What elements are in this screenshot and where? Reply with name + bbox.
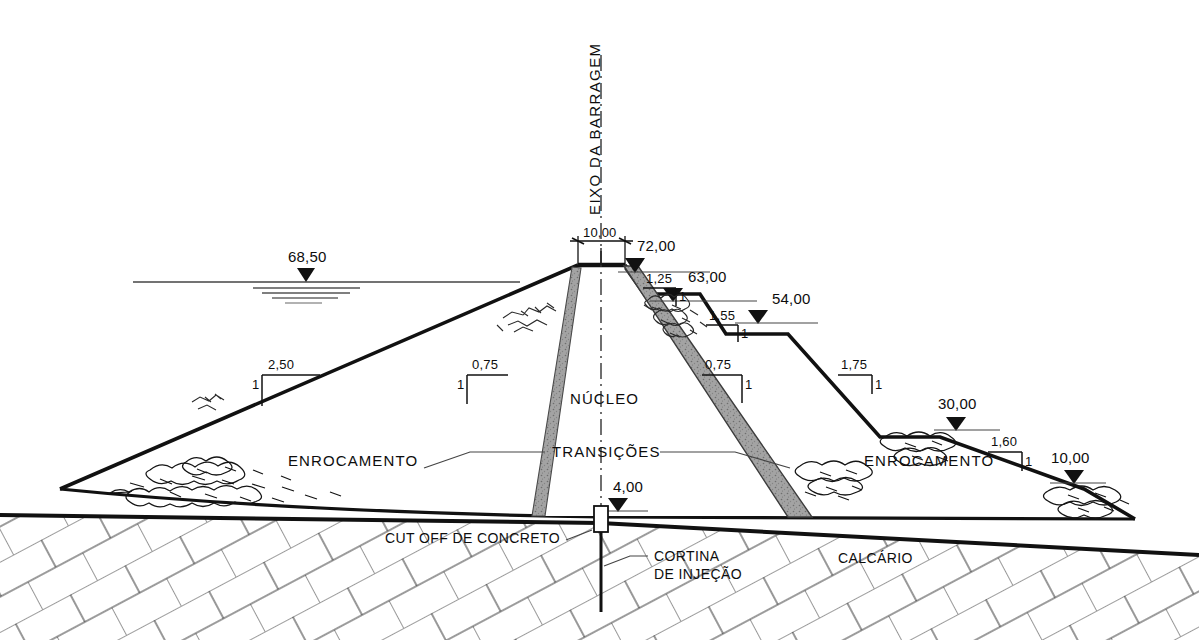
- crest-width-dimension-label: 10,00: [583, 226, 617, 240]
- slope-label-downstream-lower: 1,60: [991, 435, 1017, 449]
- elevation-label-berm-30: 30,00: [938, 396, 977, 412]
- slope-label-core-upstream: 0,75: [472, 358, 498, 372]
- slope-unit-downstream-upper: 1: [679, 290, 686, 304]
- note-label-bedrock: CALCÁRIO: [838, 551, 913, 566]
- concrete-cutoff: [594, 506, 608, 532]
- slope-unit-core-downstream: 1: [745, 378, 752, 392]
- slope-label-upstream-shell: 2,50: [268, 358, 294, 372]
- note-label-cutoff: CUT OFF DE CONCRETO: [385, 531, 560, 546]
- water-level-triangle-marker: [297, 268, 315, 282]
- slope-unit-downstream-third: 1: [875, 378, 882, 392]
- note-label-grout-curtain-line1: CORTINA: [654, 549, 720, 564]
- zone-label-core: NÚCLEO: [570, 391, 639, 407]
- slope-unit-downstream-lower: 1: [1025, 455, 1032, 469]
- slope-label-downstream-second: 1,55: [709, 309, 735, 323]
- zone-label-transitions: TRANSIÇÕES: [552, 444, 661, 460]
- slope-unit-core-upstream: 1: [457, 378, 464, 392]
- slope-label-core-downstream: 0,75: [705, 358, 731, 372]
- slope-unit-upstream-shell: 1: [252, 378, 259, 392]
- slope-label-downstream-upper: 1,25: [646, 272, 672, 286]
- elevation-label-foundation-4: 4,00: [613, 479, 643, 495]
- elevation-label-berm-54: 54,00: [772, 291, 811, 307]
- elev-marker-54: [748, 310, 768, 324]
- zone-label-rockfill-left: ENROCAMENTO: [288, 453, 418, 469]
- slope-unit-downstream-second: 1: [741, 327, 748, 341]
- note-label-grout-curtain-line2: DE INJEÇÃO: [654, 567, 742, 582]
- elevation-label-reservoir: 68,50: [288, 249, 327, 265]
- elevation-label-berm-63: 63,00: [688, 269, 727, 285]
- elev-marker-30: [946, 417, 966, 431]
- elevation-label-toe-10: 10,00: [1051, 450, 1090, 466]
- slope-label-downstream-third: 1,75: [841, 358, 867, 372]
- zone-label-rockfill-right: ENROCAMENTO: [864, 453, 994, 469]
- elevation-label-crest: 72,00: [637, 238, 676, 254]
- dam-section-drawing: EIXO DA BARRAGEM 10,00 68,50 72,00 63,00…: [0, 0, 1199, 640]
- crest-dimension: [570, 236, 633, 265]
- dam-axis-label: EIXO DA BARRAGEM: [586, 55, 603, 215]
